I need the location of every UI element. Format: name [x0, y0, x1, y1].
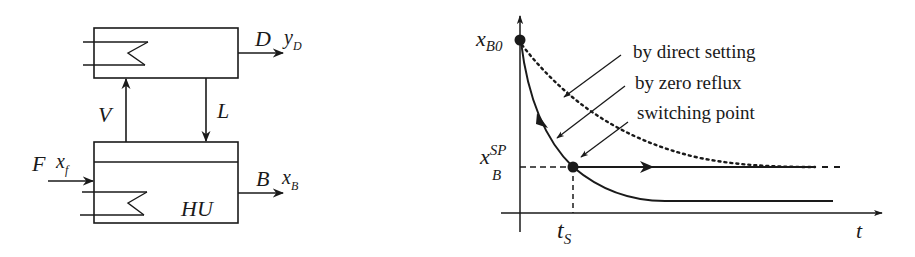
feed-label: F: [31, 151, 46, 176]
condenser-unit: [83, 28, 238, 78]
annotation-text: switching point: [637, 102, 755, 123]
initial-point-marker: [515, 35, 526, 46]
vapor-label: V: [98, 102, 114, 127]
initial-composition-label: xB0: [475, 26, 503, 54]
setpoint-composition-sub: B: [492, 167, 501, 183]
setpoint-composition-label: xSP: [479, 142, 506, 169]
annotation-text: by zero reflux: [635, 72, 742, 93]
switch-time-label: tS: [557, 217, 572, 247]
trajectory-plot: t xB0 xSP B tS by direct setting by zero…: [475, 16, 882, 247]
reboiler-coil-icon: [80, 192, 147, 215]
process-diagram: HU D yD V L F xf B xB: [31, 26, 302, 223]
annotation-arrow: [564, 55, 621, 97]
annotation-arrow: [581, 122, 628, 157]
condenser-box: [94, 28, 238, 78]
condenser-coil-icon: [83, 42, 148, 65]
bottoms-composition: xB: [281, 166, 299, 193]
reboiler-unit: HU: [80, 142, 238, 223]
bottoms-label: B: [256, 166, 269, 191]
x-axis-label: t: [856, 218, 863, 243]
distillate-composition: yD: [282, 26, 302, 53]
liquid-label: L: [216, 98, 229, 123]
annotation-text: by direct setting: [633, 41, 756, 62]
figure-canvas: HU D yD V L F xf B xB t: [0, 0, 915, 257]
distillate-label: D: [254, 26, 271, 51]
reboiler-box: [94, 142, 238, 223]
reboiler-label: HU: [180, 196, 215, 221]
curve-direction-arrow-icon: [536, 113, 548, 128]
switching-point-marker: [568, 162, 579, 173]
feed-composition: xf: [55, 150, 70, 177]
